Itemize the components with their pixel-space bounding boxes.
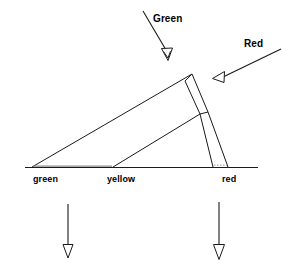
apex-right-edge: [192, 74, 208, 112]
figure-root: Green Red green yellow red: [0, 0, 282, 267]
green-wavefront-line: [32, 74, 192, 167]
right-output-arrow-head-icon: [214, 245, 225, 260]
yellow-wavefront-line: [113, 114, 200, 167]
red-incident-arrow-group: [213, 49, 282, 83]
prism-body-group: [32, 74, 228, 167]
label-vertex-yellow: yellow: [107, 174, 136, 184]
label-incoming-red: Red: [244, 38, 263, 49]
red-arrow-head-icon: [213, 72, 225, 83]
right-output-arrow-group: [214, 202, 225, 260]
red-arrow-shaft: [223, 49, 281, 77]
left-output-arrow-head-icon: [63, 245, 73, 259]
band-crossbar: [200, 112, 208, 114]
green-exit-line: [200, 114, 213, 167]
label-vertex-red: red: [222, 174, 236, 184]
left-output-arrow-group: [63, 204, 73, 258]
label-vertex-green: green: [33, 174, 58, 184]
label-incoming-green: Green: [153, 13, 182, 24]
apex-inner-edge: [185, 81, 200, 114]
prism-diagram: Green Red green yellow red: [0, 0, 282, 267]
